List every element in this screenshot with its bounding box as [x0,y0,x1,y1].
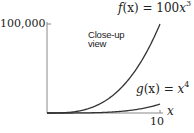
close-up-annotation: Close-up view [88,30,124,48]
f-curve-label: f(x) = 100x3 [118,1,191,15]
g-name: g [136,82,144,96]
annotation-line-2: view [88,39,124,48]
g-arg: (x) = [144,82,178,96]
f-var: x [179,1,186,15]
g-exponent: 4 [184,80,189,89]
f-arg: (x) = 100 [122,1,179,15]
x-axis-label: x [167,104,174,118]
x-tick-label: 10 [150,115,164,128]
g-curve [47,104,160,113]
chart: 100,000 10 x f(x) = 100x3 g(x) = x4 Clos… [0,0,194,133]
g-curve-label: g(x) = x4 [136,82,189,96]
f-exponent: 3 [186,0,191,8]
y-tick-label: 100,000 [0,17,46,30]
